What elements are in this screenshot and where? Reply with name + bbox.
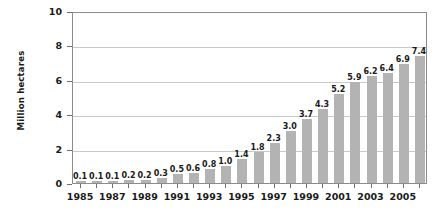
x-tick-mark (177, 184, 178, 188)
x-tick-mark (96, 184, 97, 188)
bar (350, 82, 360, 183)
bar-value-label: 1.8 (246, 143, 270, 152)
bar (157, 178, 167, 183)
bar (221, 166, 231, 183)
x-tick-mark (193, 184, 194, 188)
x-tick-mark (225, 184, 226, 188)
x-tick-mark (322, 184, 323, 188)
x-tick-mark (290, 184, 291, 188)
x-tick-mark (161, 184, 162, 188)
x-tick-mark (80, 184, 81, 188)
bar (334, 94, 344, 183)
x-tick-mark (145, 184, 146, 188)
x-tick-mark (274, 184, 275, 188)
y-tick-label: 6 (32, 76, 62, 86)
bar-value-label: 6.4 (375, 64, 399, 73)
x-tick-mark (354, 184, 355, 188)
bar (399, 64, 409, 183)
x-tick-mark (387, 184, 388, 188)
bar (173, 174, 183, 183)
y-tick-mark (67, 184, 72, 185)
y-tick-label: 8 (32, 41, 62, 51)
gridline (73, 47, 426, 48)
x-tick-mark (258, 184, 259, 188)
bar (189, 173, 199, 183)
x-tick-mark (371, 184, 372, 188)
bar-value-label: 7.4 (407, 47, 431, 56)
x-tick-mark (403, 184, 404, 188)
bar (92, 181, 102, 183)
bar (415, 56, 425, 183)
bar (286, 131, 296, 183)
bar-value-label: 6.9 (391, 55, 415, 64)
bar (318, 109, 328, 183)
bar-value-label: 4.3 (310, 100, 334, 109)
bar-value-label: 3.0 (278, 122, 302, 131)
bar (367, 76, 377, 183)
bar-value-label: 3.7 (294, 110, 318, 119)
bar (141, 180, 151, 183)
y-tick-label: 2 (32, 145, 62, 155)
bar (124, 180, 134, 183)
bar-chart: Million hectares 0246810 0.10.10.10.20.2… (0, 0, 443, 219)
bar (254, 152, 264, 183)
x-tick-mark (209, 184, 210, 188)
bar-value-label: 5.2 (326, 85, 350, 94)
x-tick-mark (306, 184, 307, 188)
bar (302, 119, 312, 183)
bar-value-label: 2.3 (262, 134, 286, 143)
x-tick-mark (128, 184, 129, 188)
bar (270, 143, 280, 183)
x-tick-mark (419, 184, 420, 188)
bar (237, 159, 247, 183)
x-tick-label: 2005 (383, 191, 423, 202)
y-tick-label: 10 (32, 7, 62, 17)
x-tick-mark (241, 184, 242, 188)
x-tick-mark (112, 184, 113, 188)
y-tick-label: 4 (32, 110, 62, 120)
y-tick-label: 0 (32, 179, 62, 189)
bar (76, 181, 86, 183)
y-axis-title: Million hectares (14, 3, 28, 178)
bar (205, 169, 215, 183)
bar (108, 181, 118, 183)
bar (383, 73, 393, 183)
x-tick-mark (338, 184, 339, 188)
